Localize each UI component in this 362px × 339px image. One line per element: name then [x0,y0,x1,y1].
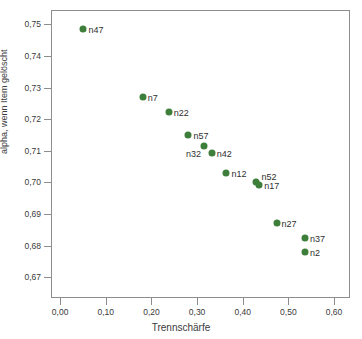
data-point-label: n12 [231,169,246,178]
data-point-label: n27 [282,220,297,229]
y-axis-tick-label: 0,75 [0,20,41,29]
x-axis-tick-label: 0,00 [52,308,69,317]
x-axis-tick [288,298,289,305]
data-point [273,220,280,227]
data-point-label: n32 [186,150,201,159]
scatter-chart: alpha, wenn Item gelöscht 0,750,740,730,… [0,0,362,339]
y-axis-tick-label: 0,70 [0,178,41,187]
y-axis-tick-label: 0,72 [0,115,41,124]
plot-area: n47n7n22n57n32n42n12n52n17n27n37n2 [52,11,349,297]
y-axis-tick [44,214,51,215]
y-axis-tick [44,182,51,183]
x-axis-title: Trennschärfe [0,322,362,333]
data-point-label: n47 [88,26,103,35]
x-axis-tick [106,298,107,305]
data-point [165,108,172,115]
data-point [139,94,146,101]
y-axis-tick-label: 0,67 [0,273,41,282]
x-axis-tick-label: 0,40 [234,308,251,317]
y-axis-tick-label: 0,71 [0,146,41,155]
x-axis-tick-label: 0,30 [189,308,206,317]
data-point-label: n2 [310,249,320,258]
y-axis-tick [44,151,51,152]
y-axis-tick-label: 0,74 [0,51,41,60]
data-point-label: n7 [148,94,158,103]
data-point-label: n22 [174,108,189,117]
x-axis-tick-label: 0,50 [280,308,297,317]
data-point-label: n42 [217,149,232,158]
y-axis-tick-label: 0,69 [0,210,41,219]
y-axis-tick [44,88,51,89]
x-axis-tick-label: 0,20 [143,308,160,317]
x-axis-tick [243,298,244,305]
data-point [80,26,87,33]
data-point [301,234,308,241]
x-axis-tick [151,298,152,305]
data-point-label: n57 [193,132,208,141]
y-axis-tick [44,246,51,247]
y-axis-tick-label: 0,73 [0,83,41,92]
plot-frame: n47n7n22n57n32n42n12n52n17n27n37n2 [51,10,350,298]
data-point [256,182,263,189]
data-point [185,132,192,139]
x-axis-tick [334,298,335,305]
x-axis-tick [60,298,61,305]
y-axis-tick-label: 0,68 [0,241,41,250]
y-axis-tick [44,119,51,120]
data-point-label: n17 [264,182,279,191]
y-axis-title: alpha, wenn Item gelöscht [0,49,9,154]
data-point [223,169,230,176]
y-axis-tick [44,56,51,57]
data-point-label: n37 [310,234,325,243]
x-axis-tick [197,298,198,305]
data-point [208,149,215,156]
data-point [201,143,208,150]
y-axis-tick [44,277,51,278]
data-point [301,249,308,256]
y-axis-tick [44,24,51,25]
x-axis-tick-label: 0,60 [326,308,343,317]
x-axis-tick-label: 0,10 [97,308,114,317]
